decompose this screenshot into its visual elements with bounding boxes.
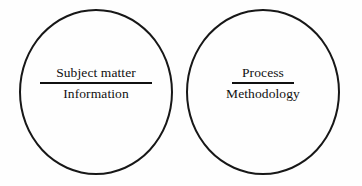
right-circle-numerator-text: Process: [186, 66, 340, 81]
right-circle-denominator-text: Methodology: [186, 86, 340, 101]
concept-diagram: Subject matter Information Process Metho…: [0, 0, 362, 186]
right-circle-fraction-label: Process Methodology: [186, 66, 340, 101]
right-circle-fraction-bar: [232, 82, 294, 84]
left-circle-fraction-bar: [40, 82, 152, 84]
left-circle-numerator-text: Subject matter: [19, 66, 173, 81]
left-circle-fraction-label: Subject matter Information: [19, 66, 173, 101]
left-circle-denominator-text: Information: [19, 86, 173, 101]
